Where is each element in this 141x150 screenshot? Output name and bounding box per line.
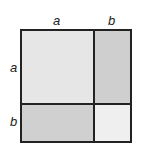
horizontal-divider xyxy=(22,103,130,105)
left-label-b: b xyxy=(10,115,17,128)
region-ab-top-right xyxy=(95,31,130,103)
region-ab-bottom-left xyxy=(22,105,93,141)
outer-square xyxy=(20,29,132,143)
left-label-a: a xyxy=(10,61,17,74)
top-label-b: b xyxy=(108,14,115,27)
region-a-squared xyxy=(22,31,93,103)
vertical-divider xyxy=(93,31,95,141)
region-b-squared xyxy=(95,105,130,141)
top-label-a: a xyxy=(53,14,60,27)
